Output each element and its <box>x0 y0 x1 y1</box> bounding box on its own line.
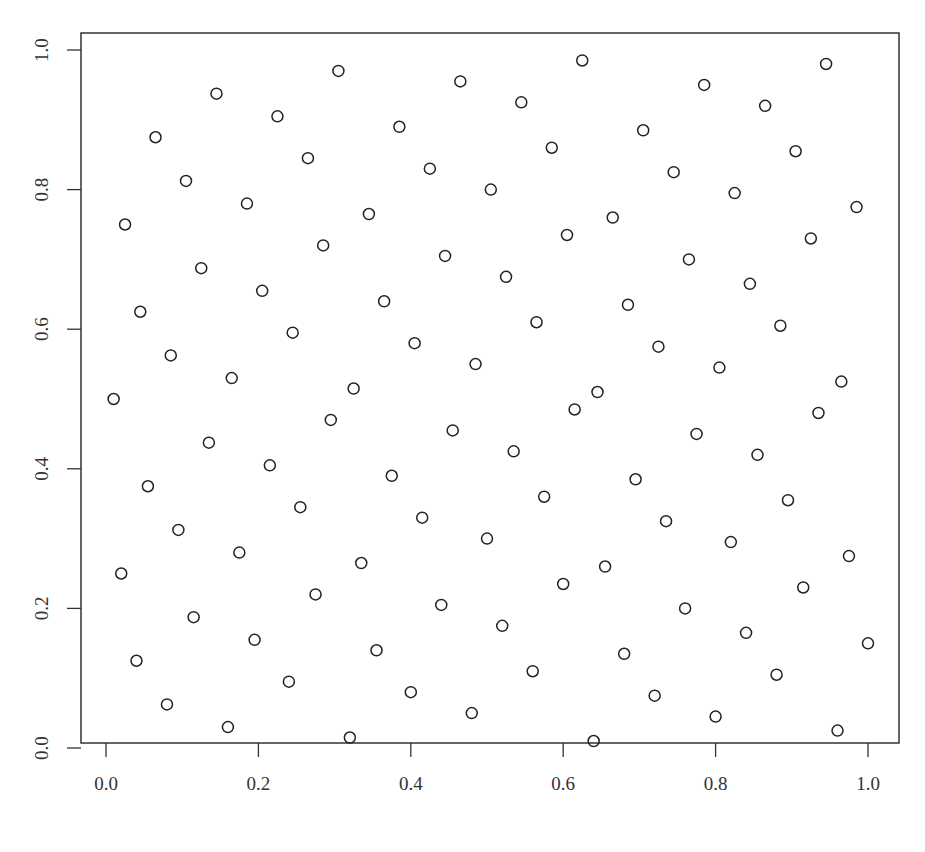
data-point <box>272 111 283 122</box>
data-point <box>325 414 336 425</box>
data-point <box>470 359 481 370</box>
x-tick-label: 0.2 <box>247 773 271 794</box>
data-point <box>668 167 679 178</box>
data-point <box>527 666 538 677</box>
data-point <box>771 669 782 680</box>
data-point <box>558 578 569 589</box>
data-point <box>424 163 435 174</box>
data-point <box>813 407 824 418</box>
data-point <box>165 350 176 361</box>
data-point <box>683 254 694 265</box>
data-point <box>295 502 306 513</box>
y-tick-label: 0.8 <box>31 178 52 202</box>
data-point <box>790 146 801 157</box>
data-point <box>116 568 127 579</box>
data-point <box>394 121 405 132</box>
data-point <box>222 722 233 733</box>
data-point <box>482 533 493 544</box>
data-point <box>851 202 862 213</box>
data-point <box>440 250 451 261</box>
data-point <box>782 495 793 506</box>
data-point <box>287 327 298 338</box>
data-point <box>310 589 321 600</box>
data-point <box>142 481 153 492</box>
x-tick-label: 0.0 <box>94 773 118 794</box>
data-point <box>691 428 702 439</box>
data-point <box>188 612 199 623</box>
data-point <box>466 708 477 719</box>
data-point <box>588 736 599 747</box>
data-point <box>131 655 142 666</box>
data-point <box>836 376 847 387</box>
data-point <box>863 638 874 649</box>
data-point <box>775 320 786 331</box>
data-point <box>161 699 172 710</box>
x-tick-label: 1.0 <box>856 773 880 794</box>
data-point <box>562 229 573 240</box>
data-point <box>211 88 222 99</box>
data-point <box>241 198 252 209</box>
data-point <box>455 76 466 87</box>
data-point <box>752 449 763 460</box>
data-point <box>302 153 313 164</box>
data-point <box>729 188 740 199</box>
data-point <box>501 271 512 282</box>
data-point <box>379 296 390 307</box>
data-point <box>832 725 843 736</box>
data-point <box>630 474 641 485</box>
data-point <box>539 491 550 502</box>
data-point <box>821 58 832 69</box>
data-point <box>741 627 752 638</box>
data-point <box>638 125 649 136</box>
data-point <box>371 645 382 656</box>
data-point <box>516 97 527 108</box>
scatter-plot: 0.00.20.40.60.81.0 0.00.20.40.60.81.0 <box>0 0 925 852</box>
data-point <box>760 100 771 111</box>
plot-frame <box>81 33 899 743</box>
data-point <box>108 394 119 405</box>
data-point <box>497 620 508 631</box>
data-point <box>318 240 329 251</box>
data-point <box>173 524 184 535</box>
data-point <box>135 306 146 317</box>
y-tick-label: 0.2 <box>31 597 52 621</box>
data-point <box>607 212 618 223</box>
data-point <box>356 558 367 569</box>
x-tick-label: 0.4 <box>399 773 423 794</box>
data-point <box>181 175 192 186</box>
data-point <box>843 551 854 562</box>
data-point <box>417 512 428 523</box>
data-point <box>363 209 374 220</box>
data-point <box>592 387 603 398</box>
y-tick-label: 1.0 <box>31 38 52 62</box>
data-point <box>577 55 588 66</box>
x-tick-label: 0.8 <box>704 773 728 794</box>
data-point <box>710 711 721 722</box>
data-point <box>333 65 344 76</box>
data-point <box>619 648 630 659</box>
data-point <box>150 132 161 143</box>
y-tick-label: 0.4 <box>31 456 52 480</box>
x-tick-label: 0.6 <box>551 773 575 794</box>
data-point <box>234 547 245 558</box>
y-tick-label: 0.6 <box>31 317 52 341</box>
data-point <box>348 383 359 394</box>
data-point <box>744 278 755 289</box>
data-point <box>485 184 496 195</box>
data-point <box>805 233 816 244</box>
data-point <box>264 460 275 471</box>
data-point <box>653 341 664 352</box>
data-point <box>386 470 397 481</box>
data-point <box>699 79 710 90</box>
data-point <box>257 285 268 296</box>
data-point <box>344 732 355 743</box>
data-point <box>283 676 294 687</box>
data-point <box>725 537 736 548</box>
data-point <box>196 263 207 274</box>
data-point <box>600 561 611 572</box>
data-point <box>436 599 447 610</box>
data-point <box>203 437 214 448</box>
data-point <box>120 219 131 230</box>
data-points <box>108 55 873 747</box>
data-point <box>249 634 260 645</box>
